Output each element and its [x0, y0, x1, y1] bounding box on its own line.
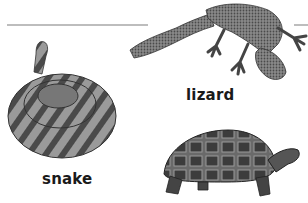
lizard-illustration	[128, 0, 308, 85]
divider-line-left	[7, 24, 148, 26]
snake-label: snake	[42, 170, 92, 188]
tortoise-illustration	[156, 126, 304, 203]
snake-illustration	[4, 38, 122, 162]
lizard-label: lizard	[186, 86, 234, 104]
